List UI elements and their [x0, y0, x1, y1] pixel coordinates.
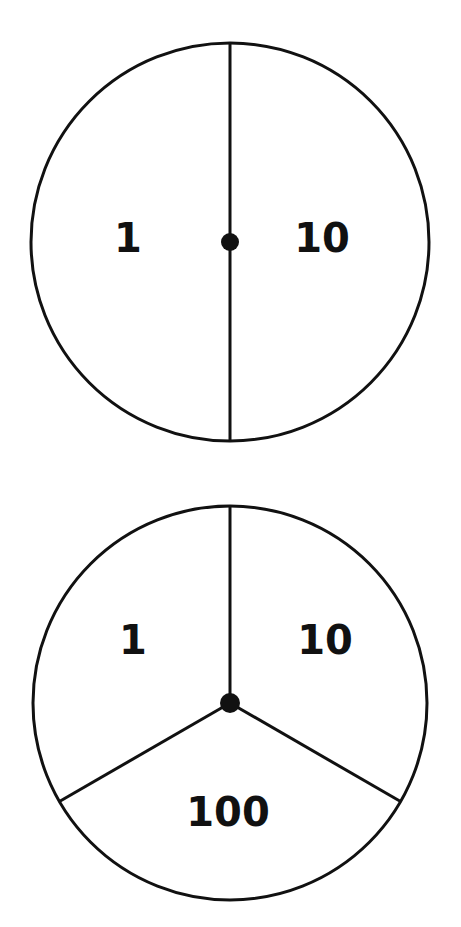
two-sector-spinner: 1 10	[0, 0, 461, 463]
sector-label-10: 10	[294, 215, 350, 261]
three-sector-spinner: 1 10 100	[0, 463, 461, 927]
sector-label-10: 10	[297, 617, 353, 663]
spinner-center-hub	[220, 693, 240, 713]
sector-label-1: 1	[114, 215, 142, 261]
spinner-center-hub	[221, 233, 239, 251]
three-sector-spinner-svg: 1 10 100	[0, 463, 461, 927]
sector-label-1: 1	[119, 617, 147, 663]
spinner-page: 1 10 1 10 100	[0, 0, 461, 927]
two-sector-spinner-svg: 1 10	[0, 0, 461, 463]
sector-label-100: 100	[186, 789, 270, 835]
